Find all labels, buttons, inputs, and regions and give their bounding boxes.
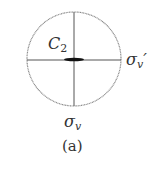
sigma-v-label: σv <box>64 114 81 132</box>
c2-label: C2 <box>48 36 67 54</box>
sigma-subscript: v <box>75 120 81 133</box>
sigma-symbol: σ <box>64 112 75 131</box>
prime-mark: ′ <box>143 50 147 69</box>
c2-axis-symbol <box>64 58 84 62</box>
figure-caption: (a) <box>62 139 83 154</box>
sigma-symbol: σ <box>126 50 137 69</box>
c2-symbol: C <box>48 34 60 53</box>
sigma-v-prime-label: σv′ <box>126 52 147 70</box>
c2-subscript: 2 <box>60 42 67 55</box>
